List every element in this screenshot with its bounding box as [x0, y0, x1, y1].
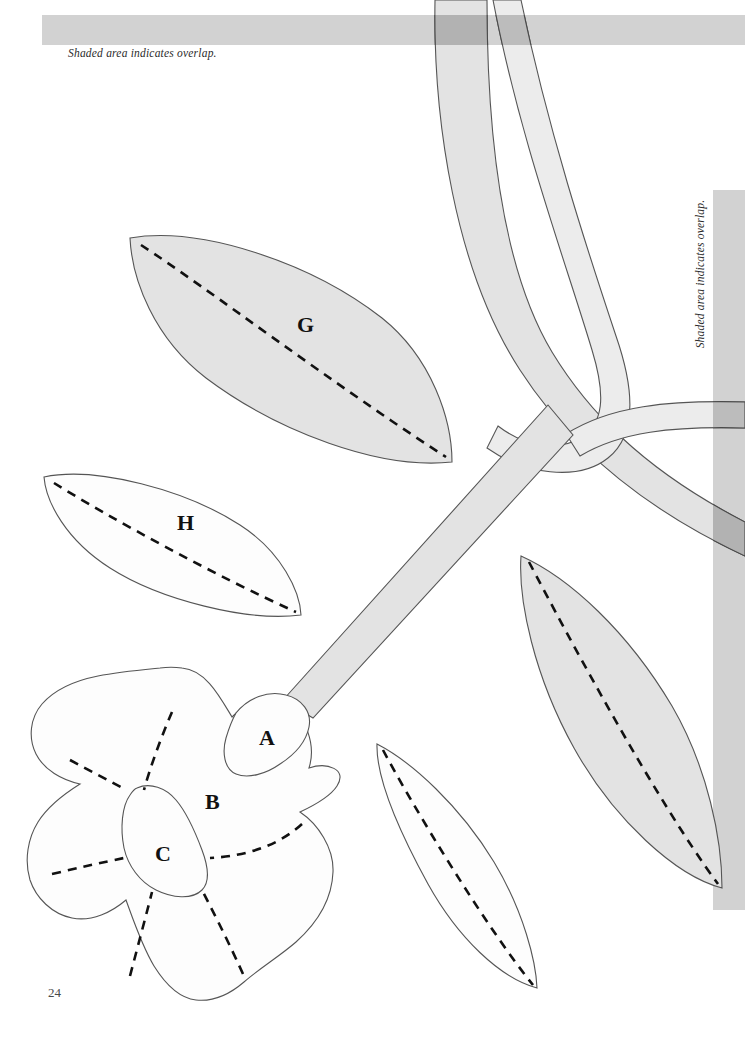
piece-label-H: H — [177, 512, 194, 534]
pattern-page: Shaded area indicates overlap. Shaded ar… — [0, 0, 745, 1041]
piece-label-B: B — [205, 791, 220, 813]
flower-cluster — [27, 667, 341, 1000]
caption-right: Shaded area indicates overlap. — [694, 189, 706, 359]
leaf-H-outline — [44, 474, 301, 616]
leaf-piece-G — [130, 236, 452, 463]
leaf-piece-right-shaded — [521, 556, 722, 888]
piece-label-C: C — [155, 843, 171, 865]
piece-label-G: G — [297, 314, 314, 336]
pattern-artwork — [0, 0, 745, 1041]
top-margin-bar — [42, 15, 745, 45]
caption-top: Shaded area indicates overlap. — [68, 47, 217, 59]
leaf-piece-lower-unshaded — [377, 744, 537, 988]
leaf-piece-H — [44, 474, 301, 616]
page-number: 24 — [48, 985, 61, 1001]
piece-label-A: A — [259, 727, 275, 749]
